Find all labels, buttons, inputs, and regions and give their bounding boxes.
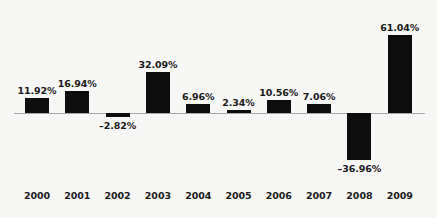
bar-2008[interactable]	[347, 113, 371, 160]
bar-2000[interactable]	[25, 98, 49, 113]
bar-2006[interactable]	[267, 100, 291, 113]
bar-2007[interactable]	[307, 104, 331, 113]
bar-value-label-2008: –36.96%	[331, 163, 387, 174]
bar-2002[interactable]	[106, 113, 130, 117]
plot-area: 11.92% 16.94% –2.82% 32.09% 6.96% 2.34% …	[0, 0, 437, 182]
bar-chart: 11.92% 16.94% –2.82% 32.09% 6.96% 2.34% …	[0, 0, 437, 218]
bar-value-label-2009: 61.04%	[372, 22, 428, 33]
bar-value-label-2007: 7.06%	[291, 91, 347, 102]
bar-2009[interactable]	[388, 35, 412, 113]
x-axis-tick-2009: 2009	[372, 190, 428, 201]
bar-value-label-2005: 2.34%	[211, 97, 267, 108]
bar-2001[interactable]	[65, 91, 89, 113]
bar-2004[interactable]	[186, 104, 210, 113]
bar-value-label-2001: 16.94%	[49, 78, 105, 89]
bar-2003[interactable]	[146, 72, 170, 113]
bar-2005[interactable]	[227, 110, 251, 113]
bar-value-label-2003: 32.09%	[130, 59, 186, 70]
bar-value-label-2002: –2.82%	[90, 120, 146, 131]
